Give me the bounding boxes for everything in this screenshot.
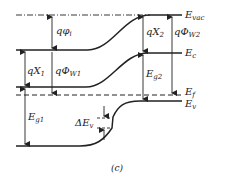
label-q-phi-w1: qΦW1 xyxy=(55,66,81,78)
label-e-g2: Eg2 xyxy=(146,69,162,81)
label-q-phi-i: qφi xyxy=(56,26,72,38)
label-q-phi-w2: qΦW2 xyxy=(174,27,200,39)
label-q-chi-1: qX1 xyxy=(27,66,45,78)
label-q-chi-2: qX2 xyxy=(146,27,164,39)
label-e-vac: Evac xyxy=(185,10,204,22)
band-diagram: Evac Ec Ef Ev qφi qX1 qΦW1 Eg1 ΔEv qX2 E… xyxy=(0,0,236,179)
label-e-c: Ec xyxy=(185,48,196,60)
label-e-g1: Eg1 xyxy=(28,112,44,124)
panel-label: (c) xyxy=(111,164,123,173)
band-diagram-lines xyxy=(0,0,236,179)
label-delta-e-v: ΔEv xyxy=(75,118,94,130)
label-e-v: Ev xyxy=(185,99,196,111)
